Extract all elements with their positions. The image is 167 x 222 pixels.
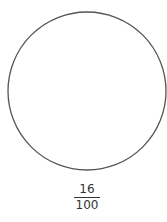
fraction-numerator: 16 [74,183,100,198]
fraction-denominator: 100 [74,198,100,212]
fraction-label: 16 100 [74,183,100,212]
